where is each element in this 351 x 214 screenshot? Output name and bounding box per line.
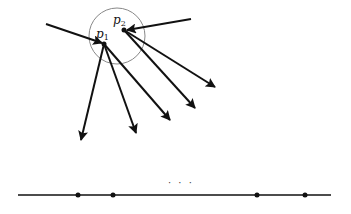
baseline-point [255, 193, 260, 198]
baseline-group: · · · [18, 177, 331, 198]
diagram-canvas: p1p2 · · · [0, 0, 351, 214]
point-label-p1: p1 [96, 27, 109, 42]
point-label-p2: p2 [113, 13, 126, 28]
arrow-group [46, 19, 215, 140]
point-p1 [102, 42, 107, 47]
incoming-arrow [127, 19, 191, 30]
outgoing-arrow [124, 30, 195, 108]
outgoing-arrow [104, 44, 136, 133]
ellipsis: · · · [168, 177, 194, 188]
baseline-point [303, 193, 308, 198]
incoming-arrow [46, 24, 102, 43]
baseline-point [76, 193, 81, 198]
baseline-point [111, 193, 116, 198]
point-p2 [122, 28, 127, 33]
outgoing-arrow [124, 30, 215, 87]
outgoing-arrow [81, 44, 104, 140]
